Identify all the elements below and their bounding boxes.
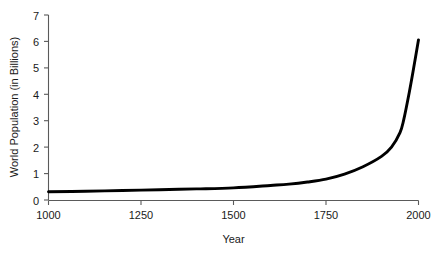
- x-axis-title: Year: [222, 233, 245, 245]
- chart-background: [0, 0, 438, 255]
- y-tick-label: 4: [33, 89, 39, 101]
- y-tick-label: 7: [33, 10, 39, 22]
- y-axis-title: World Population (in Billions): [8, 37, 20, 177]
- y-tick-label: 1: [33, 168, 39, 180]
- x-tick-label: 1000: [36, 209, 60, 221]
- y-tick-label: 6: [33, 36, 39, 48]
- y-tick-label: 0: [33, 195, 39, 207]
- x-tick-label: 1250: [129, 209, 153, 221]
- y-tick-label: 3: [33, 115, 39, 127]
- y-tick-label: 2: [33, 142, 39, 154]
- y-tick-label: 5: [33, 62, 39, 74]
- x-tick-label: 1500: [221, 209, 245, 221]
- x-tick-label: 1750: [314, 209, 338, 221]
- chart-canvas: 7 6 5 4 3 2 1 0 1000 1250 1500 1750 2000…: [0, 0, 438, 255]
- world-population-chart: 7 6 5 4 3 2 1 0 1000 1250 1500 1750 2000…: [0, 0, 438, 255]
- x-tick-label: 2000: [406, 209, 430, 221]
